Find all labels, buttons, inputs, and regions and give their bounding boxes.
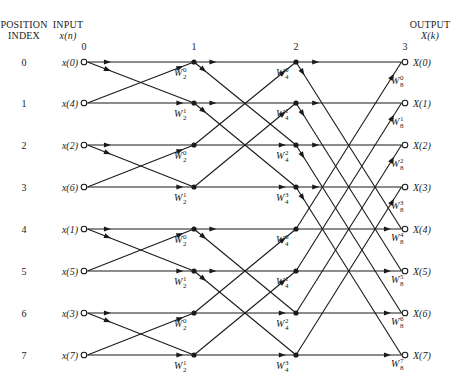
- twiddle-factor-w4: W14: [276, 275, 289, 290]
- arrow-icon: [279, 184, 286, 189]
- stage2-node: [293, 184, 298, 189]
- input-sample-label: x(2): [61, 140, 79, 152]
- stage2-node: [293, 310, 298, 315]
- stage2-node: [293, 59, 298, 64]
- output-bin-label: X(1): [412, 98, 431, 110]
- twiddle-factor-w4: W14: [276, 107, 289, 122]
- twiddle-factor-w8: W48: [391, 231, 404, 246]
- output-bin-label: X(0): [412, 57, 431, 69]
- svg-text:8: 8: [400, 322, 404, 330]
- twiddle-factor-w4: W24: [276, 149, 289, 164]
- arrow-icon: [104, 59, 111, 64]
- twiddle-factor-w2: W02: [174, 233, 187, 248]
- twiddle-factor-w2: W12: [174, 275, 187, 290]
- output-bin-label: X(3): [412, 182, 431, 194]
- stage1-node: [191, 226, 196, 231]
- arrow-icon: [103, 66, 110, 71]
- svg-text:2: 2: [183, 156, 187, 164]
- input-sample-label: x(0): [61, 57, 79, 69]
- position-index-label: 1: [22, 98, 27, 109]
- svg-text:4: 4: [285, 324, 289, 332]
- stage-number-label: 0: [82, 41, 87, 52]
- arrow-icon: [104, 142, 111, 147]
- svg-text:8: 8: [400, 122, 404, 130]
- arrow-icon: [209, 268, 216, 273]
- svg-text:2: 2: [183, 114, 187, 122]
- arrow-icon: [384, 352, 391, 357]
- input-sample-label: x(5): [61, 266, 79, 278]
- arrow-icon: [384, 226, 391, 231]
- input-sample-label: x(3): [61, 308, 79, 320]
- stage1-node: [191, 100, 196, 105]
- svg-text:8: 8: [400, 164, 404, 172]
- output-node: [402, 100, 408, 106]
- arrow-icon: [279, 142, 286, 147]
- svg-text:2: 2: [183, 73, 187, 81]
- svg-text:8: 8: [400, 81, 404, 89]
- twiddle-factor-w2: W02: [174, 149, 187, 164]
- stage2-node: [293, 142, 298, 147]
- input-sample-label: x(7): [61, 350, 79, 362]
- svg-text:4: 4: [285, 282, 289, 290]
- arrow-icon: [103, 233, 110, 238]
- stage1-node: [191, 268, 196, 273]
- arrow-icon: [103, 317, 110, 322]
- svg-text:2: 2: [183, 366, 187, 374]
- twiddle-factor-w4: W04: [276, 233, 289, 248]
- input-node: [81, 142, 87, 148]
- position-index-label: 3: [22, 182, 27, 193]
- arrow-icon: [312, 184, 319, 189]
- input-node: [81, 100, 87, 106]
- arrow-icon: [104, 310, 111, 315]
- stage-number-label: 1: [192, 41, 197, 52]
- svg-text:8: 8: [400, 280, 404, 288]
- arrow-icon: [312, 142, 319, 147]
- output-bin-label: X(2): [412, 140, 431, 152]
- arrow-icon: [104, 226, 111, 231]
- graph-labels: 01230x(0)X(0)1x(4)X(1)2x(2)X(2)3x(6)X(3)…: [22, 41, 432, 374]
- svg-text:2: 2: [183, 282, 187, 290]
- arrow-icon: [299, 109, 305, 116]
- svg-text:8: 8: [400, 364, 404, 372]
- position-index-label: 7: [22, 350, 27, 361]
- twiddle-factor-w8: W38: [391, 199, 404, 214]
- stage1-node: [191, 352, 196, 357]
- stage-number-label: 3: [403, 41, 408, 52]
- svg-text:8: 8: [400, 206, 404, 214]
- svg-text:4: 4: [285, 240, 289, 248]
- svg-text:4: 4: [285, 156, 289, 164]
- fft-butterfly-diagram: 01230x(0)X(0)1x(4)X(1)2x(2)X(2)3x(6)X(3)…: [0, 0, 452, 388]
- input-sample-label: x(6): [61, 182, 79, 194]
- twiddle-factor-w8: W78: [391, 357, 404, 372]
- arrow-icon: [312, 59, 319, 64]
- arrow-icon: [279, 352, 286, 357]
- twiddle-factor-w4: W34: [276, 191, 289, 206]
- position-index-label: 0: [22, 57, 27, 68]
- stage1-node: [191, 59, 196, 64]
- twiddle-factor-w2: W02: [174, 317, 187, 332]
- svg-text:4: 4: [285, 366, 289, 374]
- arrow-icon: [209, 100, 216, 105]
- arrow-icon: [176, 100, 183, 105]
- twiddle-factor-w8: W58: [391, 273, 404, 288]
- stage2-node: [293, 268, 298, 273]
- input-node: [81, 352, 87, 358]
- stage2-node: [293, 352, 298, 357]
- input-sample-label: x(1): [61, 224, 79, 236]
- position-index-label: 4: [22, 224, 27, 235]
- svg-text:4: 4: [285, 198, 289, 206]
- twiddle-factor-w2: W02: [174, 66, 187, 81]
- position-index-label: 5: [22, 266, 27, 277]
- twiddle-factor-w8: W18: [391, 115, 404, 130]
- twiddle-factor-w8: W28: [391, 157, 404, 172]
- twiddle-factor-w4: W34: [276, 359, 289, 374]
- arrow-icon: [299, 68, 305, 75]
- position-index-label: 6: [22, 308, 27, 319]
- stage-number-label: 2: [294, 41, 299, 52]
- input-node: [81, 268, 87, 274]
- output-bin-label: X(7): [412, 350, 431, 362]
- twiddle-factor-w4: W24: [276, 317, 289, 332]
- output-node: [402, 184, 408, 190]
- input-node: [81, 59, 87, 65]
- arrow-icon: [209, 226, 216, 231]
